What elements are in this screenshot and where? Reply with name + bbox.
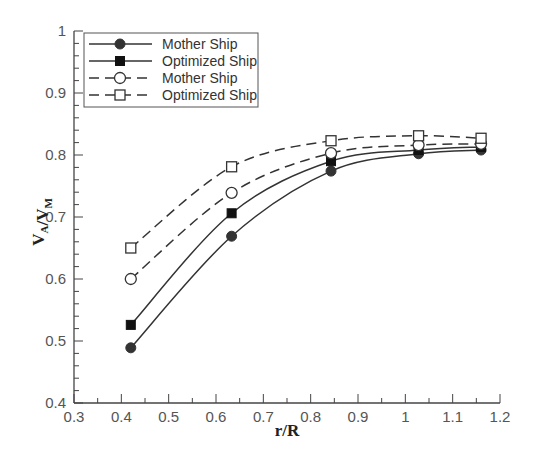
x-tick-label: 1.2 bbox=[490, 408, 511, 425]
data-point-marker bbox=[126, 320, 135, 329]
data-point-marker bbox=[227, 162, 237, 172]
x-tick-label: 0.8 bbox=[300, 408, 321, 425]
data-point-marker bbox=[326, 148, 337, 159]
legend-label: Optimized Ship bbox=[162, 87, 257, 103]
data-point-marker bbox=[125, 274, 136, 285]
legend-marker bbox=[115, 39, 125, 49]
legend-label: Optimized Ship bbox=[162, 53, 257, 69]
data-point-marker bbox=[126, 343, 136, 353]
legend-marker bbox=[115, 90, 125, 100]
y-tick-label: 0.9 bbox=[45, 84, 66, 101]
y-tick-label: 0.4 bbox=[45, 394, 66, 411]
x-tick-label: 0.5 bbox=[158, 408, 179, 425]
y-tick-label: 1 bbox=[58, 22, 66, 39]
series-line bbox=[131, 147, 481, 325]
data-point-marker bbox=[326, 166, 336, 176]
data-point-marker bbox=[126, 243, 136, 253]
data-series bbox=[125, 131, 486, 353]
data-point-marker bbox=[476, 133, 486, 143]
y-tick-label: 0.8 bbox=[45, 146, 66, 163]
x-tick-label: 0.9 bbox=[348, 408, 369, 425]
legend-marker bbox=[115, 73, 126, 84]
legend-marker bbox=[116, 57, 125, 66]
data-point-marker bbox=[226, 187, 237, 198]
data-point-marker bbox=[326, 136, 336, 146]
x-tick-label: 0.3 bbox=[64, 408, 85, 425]
x-tick-label: 0.6 bbox=[206, 408, 227, 425]
legend-label: Mother Ship bbox=[162, 36, 238, 52]
chart-root: 0.30.40.50.60.70.80.911.11.2 0.40.50.60.… bbox=[0, 0, 533, 458]
data-point-marker bbox=[414, 131, 424, 141]
series-1 bbox=[126, 145, 486, 353]
y-axis-label-text: VA/VM bbox=[29, 198, 54, 246]
line-chart: 0.30.40.50.60.70.80.911.11.2 0.40.50.60.… bbox=[0, 0, 533, 458]
legend: Mother ShipOptimized ShipMother ShipOpti… bbox=[84, 33, 258, 107]
x-tick-label: 0.7 bbox=[253, 408, 274, 425]
series-3 bbox=[125, 138, 486, 284]
data-point-marker bbox=[227, 209, 236, 218]
y-tick-label: 0.5 bbox=[45, 332, 66, 349]
x-tick-label: 1 bbox=[401, 408, 409, 425]
series-line bbox=[131, 144, 481, 279]
x-tick-label: 1.1 bbox=[442, 408, 463, 425]
data-point-marker bbox=[227, 231, 237, 241]
x-tick-label: 0.4 bbox=[111, 408, 132, 425]
y-axis-label: VA/VM bbox=[29, 198, 54, 246]
series-2 bbox=[126, 142, 485, 329]
y-tick-label: 0.6 bbox=[45, 270, 66, 287]
x-axis-label: r/R bbox=[275, 421, 300, 440]
series-line bbox=[131, 150, 481, 348]
legend-label: Mother Ship bbox=[162, 70, 238, 86]
